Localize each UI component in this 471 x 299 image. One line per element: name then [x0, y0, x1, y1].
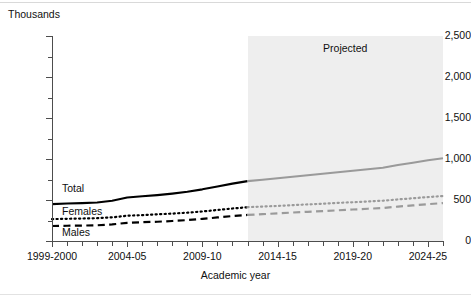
- x-tick: [263, 242, 264, 246]
- x-tick-label: 2014-15: [243, 250, 313, 262]
- x-tick: [112, 242, 113, 246]
- plot-area: Projected: [52, 36, 443, 241]
- y-tick: [46, 77, 52, 78]
- x-tick: [323, 242, 324, 246]
- y-tick-label: 0: [427, 235, 471, 246]
- y-axis-line: [52, 36, 53, 242]
- x-tick: [368, 242, 369, 246]
- y-tick-label: 1,500: [427, 112, 471, 123]
- y-tick-label: 2,500: [427, 30, 471, 41]
- y-tick: [48, 221, 52, 222]
- x-tick: [338, 242, 339, 246]
- series-total-projected: [248, 158, 444, 181]
- x-axis-title: Academic year: [0, 269, 471, 281]
- y-tick: [48, 98, 52, 99]
- y-tick: [46, 36, 52, 37]
- x-tick-label: 1999-2000: [17, 250, 87, 262]
- y-tick: [46, 118, 52, 119]
- x-tick: [428, 242, 429, 247]
- series-label-females: Females: [62, 205, 102, 217]
- top-rule: [0, 2, 471, 3]
- y-tick: [48, 139, 52, 140]
- y-tick: [46, 159, 52, 160]
- y-tick-label: 500: [427, 194, 471, 205]
- series-lines: [52, 36, 443, 241]
- x-tick-label: 2024-25: [393, 250, 463, 262]
- x-tick: [443, 242, 444, 246]
- x-tick-label: 2009-10: [167, 250, 237, 262]
- y-tick-label: 2,000: [427, 71, 471, 82]
- x-tick: [142, 242, 143, 246]
- series-males-projected: [248, 203, 444, 215]
- x-tick: [278, 242, 279, 247]
- x-tick: [157, 242, 158, 246]
- x-tick: [383, 242, 384, 246]
- x-tick: [202, 242, 203, 247]
- chart-figure: Thousands Projected 05001,0001,5002,0002…: [0, 0, 471, 299]
- x-tick: [127, 242, 128, 247]
- y-tick: [48, 180, 52, 181]
- x-tick: [52, 242, 53, 247]
- x-tick: [353, 242, 354, 247]
- x-tick-label: 2019-20: [318, 250, 388, 262]
- x-tick: [232, 242, 233, 246]
- x-tick: [248, 242, 249, 246]
- x-tick: [97, 242, 98, 246]
- x-tick: [398, 242, 399, 246]
- y-tick-label: 1,000: [427, 153, 471, 164]
- y-tick: [48, 57, 52, 58]
- x-tick: [413, 242, 414, 246]
- y-tick: [46, 200, 52, 201]
- x-tick-label: 2004-05: [92, 250, 162, 262]
- x-tick: [67, 242, 68, 246]
- series-label-total: Total: [62, 182, 84, 194]
- x-tick: [82, 242, 83, 246]
- x-tick: [308, 242, 309, 246]
- x-tick: [217, 242, 218, 246]
- y-axis-unit-label: Thousands: [8, 8, 60, 20]
- series-label-males: Males: [62, 226, 90, 238]
- x-tick: [187, 242, 188, 246]
- x-tick: [172, 242, 173, 246]
- x-tick: [293, 242, 294, 246]
- bottom-rule: [0, 294, 471, 295]
